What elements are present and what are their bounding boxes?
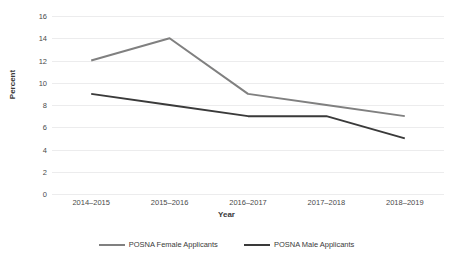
line-chart: Percent 0246810121416 2014–20152015–2016… (0, 0, 453, 263)
series-line (91, 38, 405, 116)
x-tick-label: 2018–2019 (386, 198, 424, 207)
y-tick-label: 14 (39, 34, 47, 43)
y-tick-label: 6 (43, 123, 47, 132)
x-tick-label: 2016–2017 (229, 198, 267, 207)
x-tick-label: 2017–2018 (308, 198, 346, 207)
legend-line-icon (244, 244, 270, 246)
y-tick-label: 0 (43, 190, 47, 199)
y-axis-title: Percent (8, 55, 17, 115)
legend-line-icon (99, 244, 125, 246)
legend-item[interactable]: POSNA Male Applicants (244, 240, 354, 249)
plot-area: 0246810121416 2014–20152015–20162016–201… (52, 16, 444, 194)
series-lines (52, 16, 444, 194)
legend-label: POSNA Female Applicants (129, 240, 218, 249)
y-tick-label: 8 (43, 101, 47, 110)
y-tick-label: 4 (43, 145, 47, 154)
x-tick-label: 2015–2016 (151, 198, 189, 207)
legend-label: POSNA Male Applicants (274, 240, 354, 249)
series-line (91, 94, 405, 139)
chart-legend: POSNA Female ApplicantsPOSNA Male Applic… (0, 240, 453, 249)
y-tick-label: 2 (43, 167, 47, 176)
x-axis-title: Year (0, 210, 453, 219)
y-tick-label: 10 (39, 78, 47, 87)
legend-item[interactable]: POSNA Female Applicants (99, 240, 218, 249)
y-tick-label: 16 (39, 12, 47, 21)
gridline (52, 194, 444, 195)
y-tick-label: 12 (39, 56, 47, 65)
x-tick-label: 2014–2015 (72, 198, 110, 207)
